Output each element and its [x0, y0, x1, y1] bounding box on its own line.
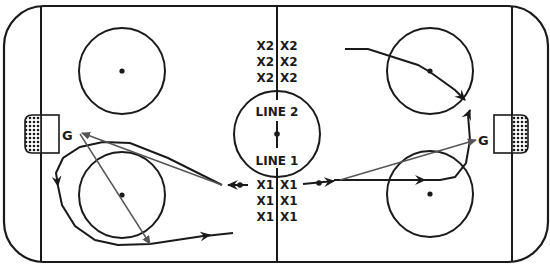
left-skate-path — [56, 142, 248, 245]
goalie-right-label: G — [478, 133, 489, 148]
player-x2: X2 — [280, 71, 298, 85]
line-1-label: LINE 1 — [256, 154, 299, 168]
hockey-rink-diagram: G G LINE 2 LINE 1 X2 X2 X2 X2 X2 X2 X1 X… — [0, 0, 550, 267]
player-x1: X1 — [256, 178, 274, 192]
right-net — [494, 115, 528, 153]
player-x1: X1 — [280, 194, 298, 208]
player-x2: X2 — [280, 39, 298, 53]
line-2-label: LINE 2 — [256, 105, 299, 119]
goalie-left-label: G — [62, 128, 73, 143]
player-x2: X2 — [280, 55, 298, 69]
faceoff-circle-top-left — [79, 28, 165, 114]
player-x1: X1 — [256, 210, 274, 224]
left-net — [25, 115, 59, 153]
faceoff-circle-bottom-right — [387, 151, 473, 237]
player-x2: X2 — [256, 55, 274, 69]
faceoff-circle-bottom-left — [79, 152, 165, 238]
player-x2: X2 — [256, 71, 274, 85]
player-x1: X1 — [256, 194, 274, 208]
player-x1: X1 — [280, 178, 298, 192]
player-x2: X2 — [256, 39, 274, 53]
player-x1: X1 — [280, 210, 298, 224]
